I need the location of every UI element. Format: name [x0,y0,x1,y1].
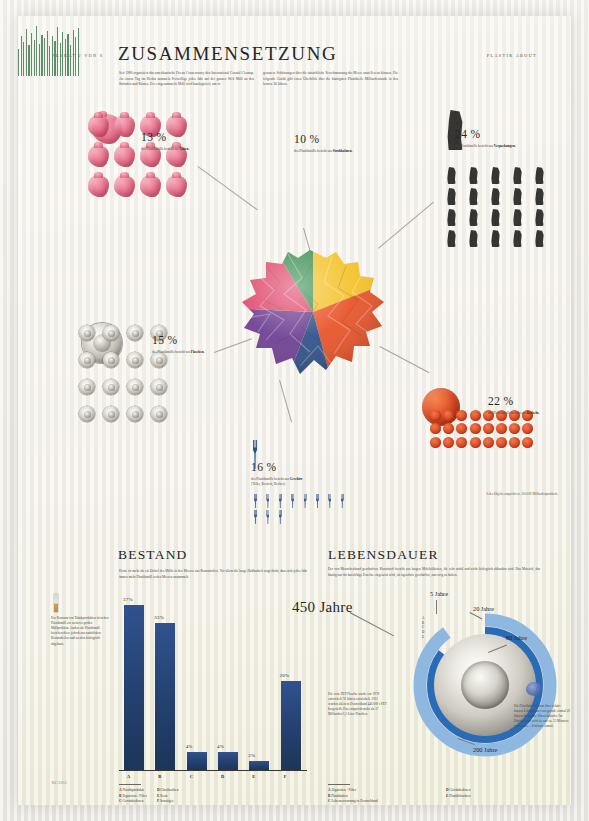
legend-column-2: D Glasflaschen E Reste F Sonstiges [157,788,178,805]
section-title-lebensdauer: LEBENSDAUER [328,547,439,563]
icon-item [312,494,323,509]
straw-icon [28,45,29,76]
legend-label: Zigaretten / Filter [331,788,356,792]
legend-item: C Lebenserwartung in Deutschland [328,799,436,805]
caption-material: Verpackungen. [494,144,516,148]
label-20-jahre: 20 Jahre [473,605,494,612]
packaging-icon [469,209,478,226]
icon-item [483,423,494,434]
icon-item [275,510,286,525]
leader-line-geschirr [279,380,292,423]
icon-item [530,187,550,206]
legend-label: Plastikflaschen [449,794,470,798]
legend-label: Zigaretten / Filter [122,794,147,798]
packaging-icon [491,167,500,184]
straw-icon [78,28,79,76]
straw-icon [73,30,74,76]
icon-item [530,208,550,227]
lebensdauer-legend: A Zigaretten / Filter B Plastiktüten C L… [328,784,470,805]
legend-label: Plastikprodukte [122,788,144,792]
icon-item [464,208,484,227]
straw-icon [44,38,45,76]
runhead-right: PLASTIK ABOUT [487,53,537,58]
fork-icon [254,510,257,524]
icon-item [148,403,170,428]
stat-geschirr: 16 % des Plastikmülls besteht aus Geschi… [251,462,363,487]
packaging-icon [491,209,500,226]
straw-icon [18,49,19,76]
plastic-bag-icon [114,115,135,137]
fork-icon [291,494,294,508]
icon-grid-strohhalme [18,16,82,76]
pet-bottle-note: Die erste PET-Flasche wurde vor 1978 ent… [328,692,388,718]
bottle-icon [103,379,119,395]
poster-credit: KC/2015 [52,781,67,785]
bar-C [187,752,207,770]
packaging-icon [469,188,478,205]
straw-icon [26,29,27,76]
bar-E [249,761,269,770]
stat-value-flaschen: 15 % [152,335,238,347]
icon-item [508,229,528,248]
fork-icon [328,494,331,508]
packaging-icon [535,188,544,205]
stat-value-tueten: 13 % [141,132,227,144]
icon-item [124,403,146,428]
bestand-intro-text: Heute ist mehr als ein Drittel des Mülls… [119,569,307,580]
icon-item [486,166,506,185]
icon-item [76,349,98,374]
fork-icon [254,494,257,508]
caption-text: des Plastikmülls besteht [488,411,521,415]
straw-icon [67,34,68,76]
icon-item [300,494,311,509]
stat-value-strohhalme: 10 % [294,134,380,146]
bestand-legend: A Plastikprodukte B Zigaretten / Filter … [119,784,178,805]
bar-category-C: C [190,774,194,779]
caption-text: des Plastikmülls besteht aus [251,477,290,481]
packaging-icon [535,209,544,226]
bottle-icon [127,406,143,422]
icon-item [508,208,528,227]
icon-item [324,494,335,509]
legend-label: Plastiktüten [331,794,348,798]
legend-label: Lebenserwartung in Deutschland [331,799,377,803]
straw-icon [34,40,35,76]
bar-category-E: E [252,774,255,779]
intro-text-column-right: genauere Schätzungen über die tatsächlic… [263,71,398,88]
bottle-icon [127,352,143,368]
bottle-icon [127,325,143,341]
legend-rule [328,784,350,785]
icon-grid-geschirr [250,494,349,526]
legend-label: Glasflaschen [160,788,178,792]
straw-icon [65,39,66,76]
label-5-jahre: 5 Jahre [430,590,448,597]
icon-item [76,403,98,428]
icon-item [483,437,494,448]
icon-item [112,172,137,200]
tick-450-jahre [350,612,395,636]
icon-item [100,322,122,347]
icon-item [464,166,484,185]
leader-line-tueten [197,166,257,210]
straw-icon [23,42,24,76]
bottle-icon [103,406,119,422]
bottle-icon [79,379,95,395]
icon-item [138,172,163,200]
plastic-bag-icon [166,175,187,197]
straw-icon [70,45,71,77]
icon-item [112,112,137,140]
plastic-bag-icon [88,175,109,197]
icon-item [442,208,462,227]
straw-icon [52,36,53,77]
icon-item [442,187,462,206]
caption-material: Strohhalmen. [333,149,353,153]
straw-icon [36,26,37,76]
legend-label: Getränkedosen [449,788,470,792]
fork-icon [279,510,282,524]
plastic-bag-icon [88,115,109,137]
poster-canvas: PLAKAT 2 VON 6 PLASTIK ABOUT ZUSAMMENSET… [0,0,589,821]
packaging-icon [513,230,522,247]
icon-item [275,494,286,509]
bar-category-B: B [158,774,161,779]
bestand-bar-chart: 37%33%4%4%2%20% [119,592,307,770]
